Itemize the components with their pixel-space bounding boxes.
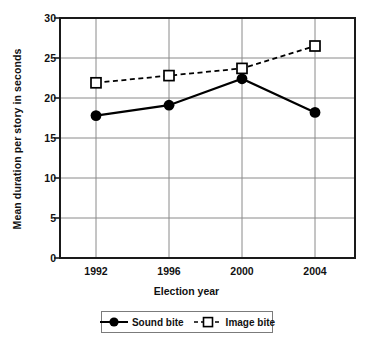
legend-marker-image-bite-icon <box>193 316 223 328</box>
chart-legend: Sound bite Image bite <box>101 311 273 333</box>
legend-label-sound-bite: Sound bite <box>132 317 184 328</box>
chart-container: Mean duration per story in seconds 30 25… <box>0 0 373 346</box>
legend-item-image-bite: Image bite <box>193 316 275 328</box>
x-tick-label-1996: 1996 <box>157 265 180 277</box>
x-tick-label-2000: 2000 <box>230 265 253 277</box>
legend-item-sound-bite: Sound bite <box>99 316 184 328</box>
x-axis-title: Election year <box>0 285 373 297</box>
x-tick-label-2004: 2004 <box>303 265 326 277</box>
legend-label-image-bite: Image bite <box>226 317 275 328</box>
legend-marker-sound-bite-icon <box>99 316 129 328</box>
x-tick-label-1992: 1992 <box>84 265 107 277</box>
